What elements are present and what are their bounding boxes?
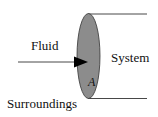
surroundings-label: Surroundings xyxy=(7,97,77,110)
fluid-label: Fluid xyxy=(31,39,58,52)
area-label: A xyxy=(88,76,95,88)
system-label: System xyxy=(111,51,149,64)
